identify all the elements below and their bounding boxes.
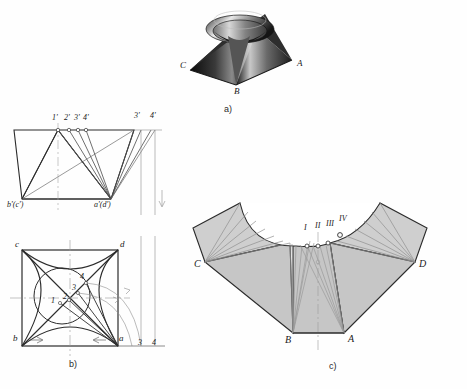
front-label-3p-right: 3' [134,111,140,120]
top-ray-4 [86,283,118,346]
pictorial-svg [0,0,467,389]
dev-point-II [316,244,320,248]
front-point-1 [56,128,59,131]
front-label-1p: 1' [52,113,58,122]
front-label-ad: a'(d') [94,200,111,209]
front-label-3p: 3' [74,113,80,122]
top-label-2: 2 [63,292,67,301]
top-label-1: 1 [51,296,55,305]
top-label-3-base: 3 [138,338,142,347]
pictorial-label-B: B [234,86,240,96]
dev-point-I [305,244,309,248]
top-label-a: a [119,333,124,343]
caption-c: c) [329,361,337,371]
front-point-4 [84,128,87,131]
front-dim-arrow [159,190,165,207]
top-label-3: 3 [72,283,76,292]
dev-label-I: I [304,223,307,232]
top-label-d: d [120,239,125,249]
dev-label-IV: IV [339,214,347,223]
front-label-2p: 2' [64,113,70,122]
top-point-1 [58,301,61,304]
top-point-2 [67,298,70,301]
front-label-bc: b'(c') [7,200,23,209]
top-label-c: c [15,239,19,249]
top-arrow-a [93,337,106,343]
cone-rim-inner [213,20,267,42]
front-label-4p-right: 4' [150,111,156,120]
dev-label-III: III [326,219,334,228]
top-ray-1 [60,303,118,346]
top-ray-2 [69,300,118,346]
caption-a: a) [224,104,232,114]
front-gen-3 [78,130,111,199]
front-point-3 [76,128,79,131]
dev-point-IV [338,233,343,238]
front-diagonal-2 [22,130,58,199]
caption-b: b) [69,359,77,369]
front-label-4p: 4' [83,113,89,122]
pictorial-label-C: C [180,60,186,70]
front-outline [14,130,134,199]
top-arrow-b [30,337,43,343]
dev-label-D: D [419,258,426,269]
figure-root: C A B 1' 2' 3' 4' 3' 4' b'(c') a'(d') c … [0,0,467,389]
top-ray-3 [78,293,118,346]
front-pyramid-edges [22,130,111,199]
top-label-4: 4 [80,272,84,281]
dev-label-B: B [285,334,291,345]
dev-label-II: II [315,221,320,230]
pictorial-label-A: A [297,58,303,68]
top-label-4-base: 4 [152,338,156,347]
top-arc-arrow-1 [124,288,130,294]
dev-label-A: A [348,333,354,344]
dev-label-C: C [194,258,201,269]
front-point-2 [67,128,70,131]
dev-point-III [326,241,330,245]
front-gen-5 [58,130,111,199]
front-gen-r2 [111,130,141,199]
top-label-b: b [13,333,18,343]
